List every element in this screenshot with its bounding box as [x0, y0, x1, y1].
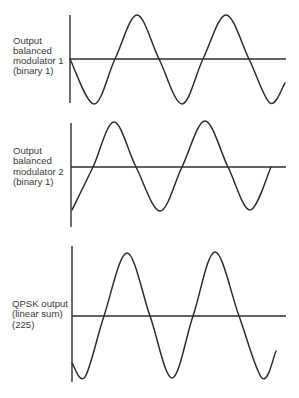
panel-qpsk-output: QPSK output (linear sum) (225)	[12, 246, 286, 382]
qpsk-waveform-diagram: Output balanced modulator 1 (binary 1) O…	[0, 0, 299, 398]
modulator-2-waveform	[72, 121, 271, 211]
panel-label-line: (binary 1)	[13, 65, 54, 76]
panel-modulator-2: Output balanced modulator 2 (binary 1)	[13, 121, 286, 227]
panel-label-line: balanced	[13, 155, 52, 166]
panel-label-line: (linear sum)	[12, 308, 63, 319]
panel-label-line: (binary 1)	[13, 176, 54, 187]
panel-label-line: (225)	[12, 319, 34, 330]
panel-modulator-1: Output balanced modulator 1 (binary 1)	[13, 15, 286, 104]
